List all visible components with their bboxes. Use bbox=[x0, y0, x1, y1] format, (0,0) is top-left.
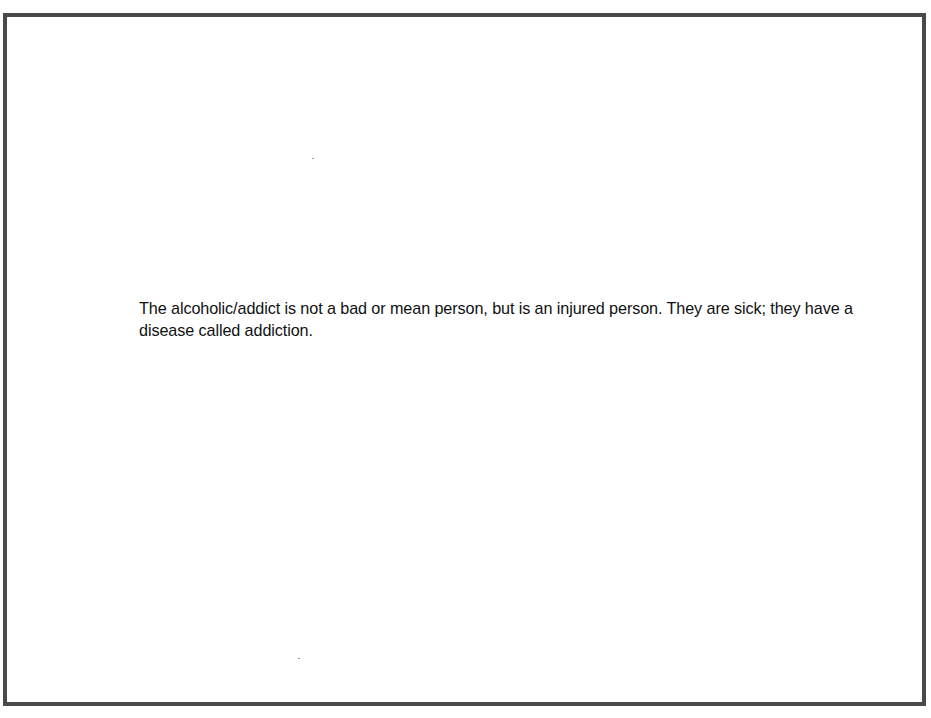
slide-body-text: The alcoholic/addict is not a bad or mea… bbox=[139, 297, 859, 341]
scan-speck bbox=[312, 158, 314, 159]
scan-speck bbox=[298, 658, 300, 659]
slide-frame bbox=[3, 13, 926, 706]
